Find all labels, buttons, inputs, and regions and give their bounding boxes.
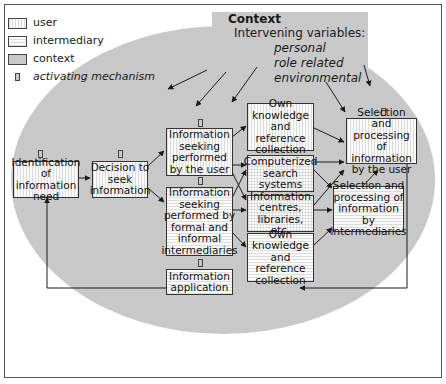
node-identification-of-information-need: Identification of information need	[13, 161, 79, 198]
node-information-centres: Information centres, libraries, etc.	[247, 195, 314, 232]
activating-mechanism-icon	[198, 259, 203, 267]
activating-mechanism-icon	[198, 177, 203, 185]
node-selection-processing-intermediaries: Selection and processing of information …	[333, 186, 404, 232]
node-selection-processing-user: Selection and processing of information …	[346, 118, 417, 164]
node-information-application: Information application	[166, 269, 233, 295]
activating-mechanism-icon	[198, 119, 203, 127]
activating-mechanism-icon	[118, 150, 123, 158]
node-information-seeking-user: Information seeking performed by the use…	[166, 128, 233, 176]
node-computerized-search-systems: Computerized search systems	[247, 155, 314, 192]
node-information-seeking-intermediaries: Information seeking performed by formal …	[166, 187, 233, 256]
node-own-knowledge-user: Own knowledge and reference collection	[247, 103, 314, 151]
node-own-knowledge-intermediaries: Own knowledge and reference collection	[247, 233, 314, 282]
node-decision-to-seek-information: Decision to seek information	[92, 161, 148, 198]
